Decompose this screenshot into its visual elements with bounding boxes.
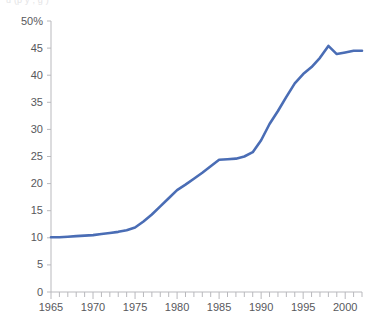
x-axis-tick-label: 1965 [31,302,71,313]
line-chart: u (p y , g ) 05101520253035404550% 19651… [0,0,380,325]
x-axis-tick-label: 1995 [283,302,323,313]
x-axis-tick-label: 1970 [73,302,113,313]
x-axis-tick-label: 1985 [199,302,239,313]
x-axis-tick-label: 1990 [241,302,281,313]
x-axis-tick-label: 1975 [115,302,155,313]
x-axis-tick-label: 2000 [325,302,365,313]
x-axis-tick-labels: 19651970197519801985199019952000 [0,0,380,325]
x-axis-tick-label: 1980 [157,302,197,313]
